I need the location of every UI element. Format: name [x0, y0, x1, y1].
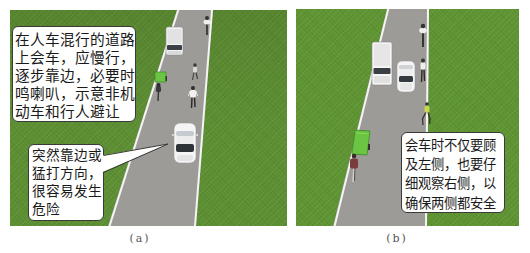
tricycle-wheel: [368, 144, 370, 150]
car-rear-window: [399, 65, 413, 69]
rider-head: [352, 154, 357, 159]
pedestrian-torso: [425, 106, 430, 113]
pedestrian-torso: [421, 63, 426, 70]
panel-b-caption: (b): [377, 232, 417, 245]
rider-head: [157, 83, 161, 87]
car-front-windshield: [176, 131, 194, 136]
van: [372, 42, 392, 85]
tricycle-frame: [355, 167, 356, 181]
callout-text-line: 危险: [32, 200, 101, 218]
callout-text-line: 很容易发生: [32, 182, 101, 200]
pedestrian-leg: [422, 70, 423, 83]
cyclist-head: [205, 16, 209, 20]
callout-check-both-sides: 会车时不仅要顾 及左侧，也要仔 细观察右侧，以 确保两侧都安全: [401, 132, 505, 213]
cargo-tricycle: [352, 130, 370, 155]
rider-jacket: [350, 159, 358, 169]
car-roof: [177, 136, 194, 144]
callout-text-line: 突然靠边或: [32, 146, 101, 164]
van: [166, 27, 183, 55]
car: [172, 123, 198, 163]
cargo-tricycle: [155, 72, 167, 82]
tricycle-frame: [158, 91, 159, 101]
callout-text-line: 逐步靠边，必要时: [15, 67, 134, 85]
pedestrian-leg: [195, 97, 196, 107]
van-roof: [168, 29, 182, 44]
callout-text-line: 在人车混行的道路: [15, 31, 134, 49]
callout-text-line: 会车时不仅要顾: [405, 136, 502, 155]
pedestrian-leg: [424, 70, 425, 82]
callout-text-line: 动车和行人避让: [15, 103, 134, 121]
car-trunk: [177, 155, 193, 161]
car-roof: [400, 69, 413, 76]
callout-text-line: 鸣喇叭，示意非机: [15, 85, 134, 103]
cyclist-shirt: [419, 28, 427, 34]
cargo-box: [155, 72, 166, 82]
van-hood: [168, 51, 182, 54]
pedestrian-head: [193, 63, 196, 66]
tricycle-wheel: [166, 76, 168, 81]
van-roof: [374, 44, 390, 66]
pedestrian-head: [425, 102, 429, 106]
callout-text-line: 及左侧，也要仔: [405, 155, 502, 174]
pedestrian-torso: [193, 67, 197, 73]
van-windshield: [374, 68, 391, 74]
pedestrian-head: [421, 59, 425, 63]
car-hood: [400, 83, 412, 90]
callout-text-line: 确保两侧都安全: [405, 194, 502, 213]
pedestrian-head: [191, 86, 195, 90]
pedestrian-leg: [428, 112, 430, 124]
car-rear-window: [176, 144, 194, 152]
panel-a-caption: (a): [120, 232, 160, 245]
callout-text-line: 猛打方向，: [32, 164, 101, 182]
callout-text-line: 细观察右侧，以: [405, 174, 502, 193]
callout-mixed-traffic-advice: 在人车混行的道路 上会车，应慢行， 逐步靠边，必要时 鸣喇叭，示意非机 动车和行…: [12, 26, 136, 122]
car-windshield: [399, 76, 413, 82]
callout-danger-warning: 突然靠边或 猛打方向， 很容易发生 危险: [28, 144, 104, 221]
cyclist-shirt: [204, 20, 211, 25]
cyclist-head: [421, 24, 425, 28]
callout-text-line: 上会车，应慢行，: [15, 49, 134, 67]
car: [397, 61, 415, 92]
tricycle-frame: [353, 167, 354, 182]
pedestrian-leg: [192, 97, 193, 108]
van-hood: [374, 76, 390, 83]
pedestrian-torso: [190, 90, 196, 98]
van-windshield: [167, 45, 182, 50]
